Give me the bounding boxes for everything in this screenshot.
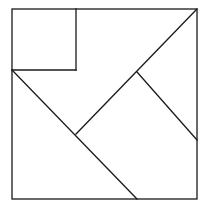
- long-diagonal-left: [12, 70, 137, 199]
- tangram-diagram: [0, 0, 208, 206]
- dissection-lines: [12, 9, 197, 199]
- diagonal-upper: [76, 9, 197, 134]
- diagonal-right: [137, 72, 197, 140]
